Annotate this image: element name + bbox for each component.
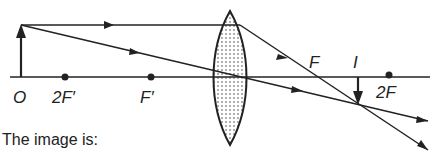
label-2f: 2F	[375, 83, 397, 102]
label-f: F	[309, 53, 321, 72]
ray-arrow-icon	[291, 86, 303, 93]
caption-text: The image is:	[2, 131, 98, 149]
ray-arrow-icon	[416, 116, 428, 123]
label-f-prime: F′	[140, 88, 154, 107]
label-object: O	[13, 88, 26, 107]
ray-arrow-icon	[129, 48, 140, 55]
ray-arrow-icon	[104, 21, 114, 29]
ray-refracted-focal	[240, 25, 428, 150]
convex-lens	[214, 11, 247, 145]
label-2f-prime: 2F′	[51, 88, 76, 107]
ray-arrow-icon	[417, 140, 428, 150]
label-image: I	[353, 53, 358, 72]
point-2f-prime	[62, 74, 69, 81]
point-2f	[386, 72, 393, 79]
point-f-prime	[148, 74, 155, 81]
